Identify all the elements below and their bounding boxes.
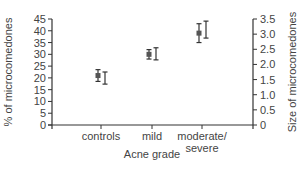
y-tick-label: 15 [34,84,46,96]
y2-axis-label: Size of microcomedones [286,11,298,132]
y2-tick-label: 0 [260,119,266,131]
y-tick-label: 35 [34,37,46,49]
y-tick-label: 0 [40,119,46,131]
x-tick-label: severe [185,142,218,154]
x-tick-label: controls [82,130,121,142]
percent-marker [197,24,202,43]
y2-tick-label: 2.0 [260,58,275,70]
y2-tick-label: 0.5 [260,104,275,116]
data-points [96,21,209,84]
y2-tick-label: 2.5 [260,43,275,55]
x-tick-label: moderate/ [177,130,227,142]
y-tick-label: 20 [34,72,46,84]
y-tick-label: 10 [34,95,46,107]
x-axis-label: Acne grade [124,148,180,160]
tick-labels: 05101520253035404500.51.01.52.02.53.03.5… [34,13,276,154]
y-tick-label: 45 [34,13,46,25]
y-tick-label: 5 [40,107,46,119]
y2-tick-label: 1.5 [260,74,275,86]
y-tick-label: 25 [34,60,46,72]
size-marker [103,72,108,84]
size-marker [204,21,209,38]
x-tick-label: mild [142,130,162,142]
percent-marker [147,50,152,59]
chart: 05101520253035404500.51.01.52.02.53.03.5… [0,0,306,173]
y2-tick-label: 3.0 [260,28,275,40]
percent-marker [96,70,101,82]
y2-tick-label: 1.0 [260,89,275,101]
y-axis-label: % of microcomedones [2,17,14,126]
axes [48,19,257,129]
y2-tick-label: 3.5 [260,13,275,25]
y-tick-label: 30 [34,48,46,60]
size-marker [154,48,159,60]
y-tick-label: 40 [34,25,46,37]
